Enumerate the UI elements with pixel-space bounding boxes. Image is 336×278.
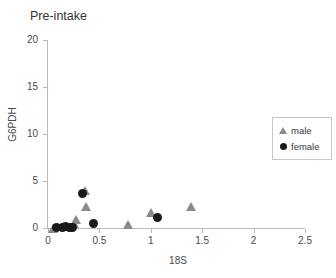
data-point-female	[153, 213, 162, 222]
plot-area	[48, 40, 305, 228]
x-tick-label: 2.5	[285, 235, 325, 246]
triangle-marker-icon	[279, 127, 287, 134]
scatter-chart-figure: Pre-intake 05101520 00.511.522.5 G6PDH 1…	[0, 0, 336, 278]
x-axis-label: 18S	[98, 255, 258, 266]
y-tick-label: 0	[4, 222, 38, 233]
legend-item-female[interactable]: female	[277, 138, 328, 154]
x-tick-label: 0.5	[79, 235, 119, 246]
x-axis-line	[47, 228, 305, 229]
x-tick-label: 0	[28, 235, 68, 246]
data-point-male	[186, 202, 196, 211]
legend-item-male[interactable]: male	[277, 122, 328, 138]
x-tick-mark	[305, 229, 306, 233]
x-tick-label: 1	[131, 235, 171, 246]
chart-title: Pre-intake	[30, 9, 87, 23]
chart-legend: malefemale	[272, 117, 332, 160]
y-tick-label: 5	[4, 175, 38, 186]
data-point-male	[123, 220, 133, 229]
x-tick-mark	[202, 229, 203, 233]
x-tick-label: 2	[234, 235, 274, 246]
x-tick-label: 1.5	[182, 235, 222, 246]
legend-label: female	[291, 141, 320, 152]
data-point-female	[78, 189, 87, 198]
x-tick-mark	[254, 229, 255, 233]
data-point-female	[89, 219, 98, 228]
y-axis-label: G6PDH	[7, 95, 18, 155]
y-tick-label: 15	[4, 81, 38, 92]
y-tick-label: 20	[4, 34, 38, 45]
x-tick-mark	[99, 229, 100, 233]
legend-marker-female	[277, 143, 289, 150]
legend-label: male	[291, 125, 312, 136]
data-point-female	[68, 223, 77, 232]
x-tick-mark	[151, 229, 152, 233]
data-point-male	[81, 202, 91, 211]
legend-marker-male	[277, 127, 289, 134]
circle-marker-icon	[280, 143, 287, 150]
